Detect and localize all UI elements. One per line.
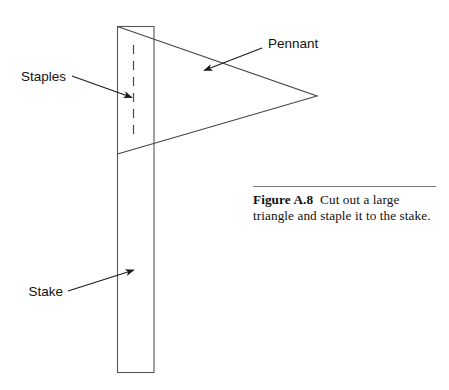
stake-label: Stake [28,284,63,299]
stake-shape [118,27,155,373]
staples-label: Staples [21,69,66,84]
caption-text: Figure A.8Cut out a large triangle and s… [253,192,436,223]
staples-leader-line [72,76,132,98]
pennant-label: Pennant [268,36,319,51]
caption-divider [253,186,436,187]
figure-caption: Figure A.8Cut out a large triangle and s… [253,186,436,223]
stake-leader-line [68,270,134,291]
figure-canvas: Pennant Staples Stake Figure A.8Cut out … [0,0,449,390]
caption-number: Figure A.8 [253,192,313,207]
